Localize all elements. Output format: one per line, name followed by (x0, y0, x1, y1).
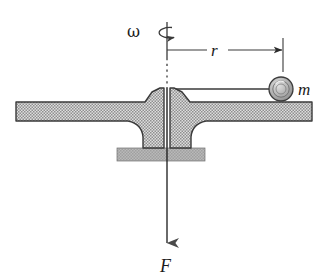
base-pedestal (117, 148, 205, 161)
mass-label: m (298, 80, 310, 99)
force-label: F (159, 256, 172, 276)
physics-diagram: ω r m F (0, 0, 327, 278)
omega-label: ω (127, 22, 140, 41)
figure-canvas: ω r m F (0, 0, 327, 278)
mass-sphere (269, 77, 293, 101)
radius-label: r (211, 41, 218, 60)
